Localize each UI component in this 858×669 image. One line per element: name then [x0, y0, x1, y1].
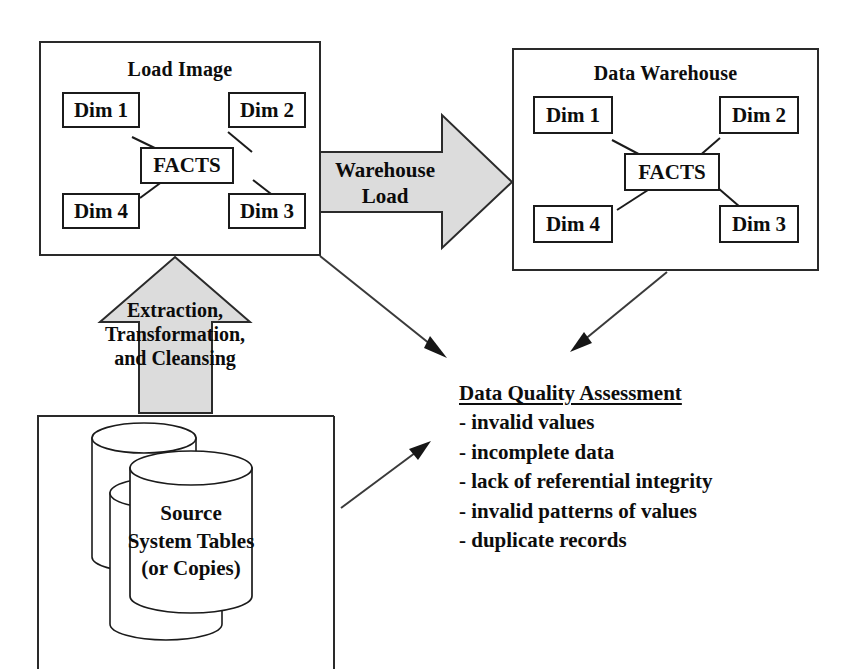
warehouse-load-arrow-label-line-1: Warehouse [325, 158, 445, 184]
load-image-dim-3-label: Dim 3 [240, 199, 294, 224]
data-quality-issue-item: - lack of referential integrity [459, 467, 712, 497]
load-image-dim-4-label: Dim 4 [74, 199, 128, 224]
data-warehouse-to-dqa-arrow [570, 272, 667, 352]
data-warehouse-dim-2-box: Dim 2 [719, 96, 799, 134]
load-image-facts-box: FACTS [140, 147, 234, 184]
source-systems-label-line-2: System Tables [111, 528, 271, 556]
load-image-dim-2-label: Dim 2 [240, 98, 294, 123]
load-image-dim-2-box: Dim 2 [228, 92, 306, 128]
data-quality-issue-item: - duplicate records [459, 526, 712, 556]
load-image-to-dqa-arrow [320, 256, 447, 358]
data-quality-issue-item: - invalid patterns of values [459, 497, 712, 527]
data-warehouse-dim-3-label: Dim 3 [732, 212, 786, 237]
source-systems-to-dqa-arrow [341, 441, 431, 508]
source-systems-label-line-3: (or Copies) [111, 555, 271, 583]
etc-arrow-label-line-1: Extraction, [80, 298, 270, 322]
etc-arrow-label: Extraction, Transformation, and Cleansin… [80, 298, 270, 370]
data-warehouse-facts-box: FACTS [624, 153, 720, 191]
data-warehouse-title: Data Warehouse [513, 62, 818, 84]
data-warehouse-dim-3-box: Dim 3 [719, 205, 799, 243]
data-quality-issue-item: - invalid values [459, 408, 712, 438]
data-warehouse-dim-4-box: Dim 4 [533, 205, 613, 243]
data-quality-issue-item: - incomplete data [459, 438, 712, 468]
source-systems-label: Source System Tables (or Copies) [111, 500, 271, 583]
data-warehouse-dim-4-label: Dim 4 [546, 212, 600, 237]
etc-arrow-label-line-2: Transformation, [80, 322, 270, 346]
load-image-dim-1-box: Dim 1 [62, 92, 140, 128]
warehouse-load-arrow-label: Warehouse Load [325, 158, 445, 209]
load-image-title: Load Image [40, 58, 320, 80]
data-quality-assessment-title: Data Quality Assessment [459, 381, 712, 406]
warehouse-load-arrow-label-line-2: Load [325, 184, 445, 210]
diagram-canvas: Load Image Dim 1 Dim 2 FACTS Dim 4 Dim 3… [0, 0, 858, 669]
etc-arrow-label-line-3: and Cleansing [80, 346, 270, 370]
load-image-dim-4-box: Dim 4 [62, 193, 140, 229]
source-systems-label-line-1: Source [111, 500, 271, 528]
load-image-facts-label: FACTS [153, 153, 220, 178]
data-warehouse-dim-2-label: Dim 2 [732, 103, 786, 128]
data-quality-issue-list: - invalid values- incomplete data- lack … [459, 408, 712, 556]
data-warehouse-dim-1-box: Dim 1 [533, 96, 613, 134]
load-image-dim-3-box: Dim 3 [228, 193, 306, 229]
data-warehouse-facts-label: FACTS [638, 160, 705, 185]
load-image-dim-1-label: Dim 1 [74, 98, 128, 123]
data-warehouse-dim-1-label: Dim 1 [546, 103, 600, 128]
data-quality-assessment-block: Data Quality Assessment - invalid values… [459, 381, 712, 556]
